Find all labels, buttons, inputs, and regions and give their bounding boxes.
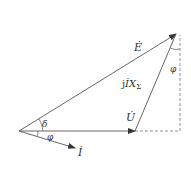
label-jix-sub: Σ xyxy=(136,83,141,91)
label-phi-top: φ xyxy=(170,64,177,74)
label-jix: jİXΣ xyxy=(121,78,141,91)
label-jix-main: İX xyxy=(124,78,137,89)
label-e: Ė xyxy=(133,40,142,54)
label-i: İ xyxy=(77,145,83,159)
label-delta: δ xyxy=(42,119,47,129)
vector-e xyxy=(19,34,176,131)
label-u: U̇ xyxy=(126,111,136,124)
angle-arc-phi-origin xyxy=(37,131,38,137)
label-phi-origin: φ xyxy=(47,132,54,142)
phasor-diagram: Ė U̇ İ jİXΣ δ φ φ xyxy=(0,0,191,171)
angle-arc-phi-top xyxy=(170,48,180,49)
